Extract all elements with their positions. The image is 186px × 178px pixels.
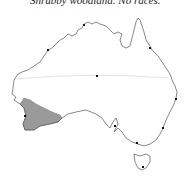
marker-darwin [83, 24, 85, 26]
marker-cairns [149, 47, 151, 49]
marker-brisbane [175, 98, 177, 100]
marker-perth [24, 115, 26, 117]
marker-broome [47, 49, 49, 51]
tropic-line [14, 75, 168, 79]
marker-melbourne [136, 142, 138, 144]
marker-adelaide [114, 125, 116, 127]
marker-sydney [162, 127, 164, 129]
marker-hobart [142, 166, 144, 168]
marker-alice-springs [96, 75, 98, 77]
species-range-area [20, 98, 62, 130]
australia-range-map [0, 0, 186, 178]
